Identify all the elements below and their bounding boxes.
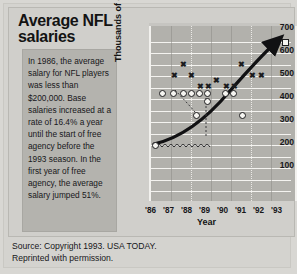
scatter-x-marker: ✖	[231, 83, 238, 90]
scatter-circle-marker	[193, 112, 200, 119]
x-tick-label: '89	[199, 206, 210, 215]
y-tick-label: 200	[268, 137, 294, 147]
x-axis-title: Year	[119, 217, 294, 227]
x-tick-label: '90	[217, 206, 228, 215]
y-tick-label: 100	[268, 160, 294, 170]
y-tick-label: 300	[268, 114, 294, 124]
y-tick-label: 500	[268, 68, 294, 78]
description-text: In 1986, the average salary for NFL play…	[23, 50, 116, 201]
scatter-circle-marker	[159, 90, 166, 97]
scatter-circle-marker	[204, 90, 211, 97]
scatter-x-marker: ✖	[258, 72, 265, 79]
x-tick-label: '91	[235, 206, 246, 215]
y-tick-label: 600	[268, 45, 294, 55]
y-axis-title: Thousands of dollars	[113, 0, 123, 62]
scatter-x-marker: ✖	[180, 61, 187, 68]
scatter-circle-marker	[222, 90, 229, 97]
scatter-x-marker: ✖	[238, 61, 245, 68]
chart-area: Thousands of dollars	[119, 16, 294, 234]
y-tick-label: 400	[268, 91, 294, 101]
x-tick-label: '87	[163, 206, 174, 215]
x-tick-label: '88	[181, 206, 192, 215]
scatter-x-marker: ✖	[213, 77, 220, 84]
scatter-circle-marker	[170, 90, 177, 97]
scatter-circle-marker	[204, 98, 211, 105]
description-panel: In 1986, the average salary for NFL play…	[22, 49, 117, 232]
source-line-2: Reprinted with permission.	[12, 252, 282, 264]
scatter-circle-marker	[239, 112, 246, 119]
y-tick-label: 700	[268, 22, 294, 32]
scatter-x-marker: ✖	[197, 83, 204, 90]
scatter-x-marker: ✖	[205, 83, 212, 90]
source-line-1: Source: Copyright 1993. USA TODAY.	[12, 240, 282, 252]
source-attribution: Source: Copyright 1993. USA TODAY. Repri…	[12, 240, 282, 264]
x-tick-label: '86	[145, 206, 156, 215]
scatter-circle-marker	[230, 90, 237, 97]
figure-panel: Average NFL salaries In 1986, the averag…	[8, 7, 295, 237]
figure-root: Average NFL salaries In 1986, the averag…	[0, 0, 297, 274]
scatter-circle-marker	[196, 90, 203, 97]
scatter-x-marker: ✖	[171, 72, 178, 79]
start-point-marker	[152, 142, 159, 149]
scatter-x-marker: ✖	[249, 72, 256, 79]
scatter-x-marker: ✖	[188, 72, 195, 79]
scatter-circle-marker	[180, 90, 187, 97]
x-tick-label: '93	[271, 206, 282, 215]
scatter-circle-marker	[188, 90, 195, 97]
scatter-x-marker: ✖	[223, 83, 230, 90]
page-frame: Average NFL salaries In 1986, the averag…	[3, 3, 291, 268]
x-tick-label: '92	[253, 206, 264, 215]
